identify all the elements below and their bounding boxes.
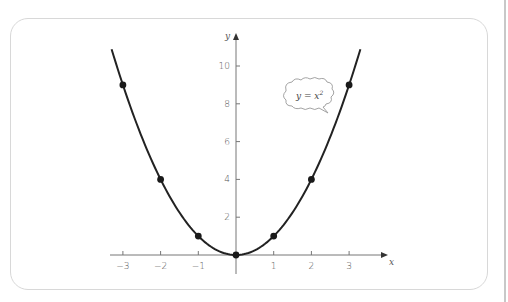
x-tick-label: 2	[309, 261, 315, 271]
equation-callout: y = x2	[284, 78, 334, 114]
y-tick-label: 6	[224, 137, 230, 147]
y-tick-label: 2	[224, 212, 230, 222]
data-point	[346, 82, 353, 89]
y-tick-label: 4	[224, 174, 230, 184]
axes: xy	[110, 31, 394, 274]
x-axis-label: x	[389, 257, 394, 267]
data-point	[120, 82, 127, 89]
parabola-chart: xy −3−2−1123246810 y = x2	[0, 0, 508, 302]
x-tick-label: 3	[346, 261, 352, 271]
x-axis-arrow-icon	[381, 252, 388, 258]
y-tick-label: 10	[219, 61, 230, 71]
data-point	[195, 233, 202, 240]
x-tick-label: −3	[116, 261, 129, 271]
data-point	[270, 233, 277, 240]
x-tick-label: −1	[192, 261, 205, 271]
equation-label: y = x2	[295, 89, 323, 101]
data-point	[233, 252, 240, 259]
x-tick-label: 1	[271, 261, 277, 271]
y-axis-label: y	[224, 31, 231, 41]
data-point	[308, 176, 315, 183]
y-axis-arrow-icon	[233, 33, 239, 40]
y-tick-label: 8	[224, 99, 230, 109]
data-point	[157, 176, 164, 183]
x-tick-label: −2	[154, 261, 167, 271]
